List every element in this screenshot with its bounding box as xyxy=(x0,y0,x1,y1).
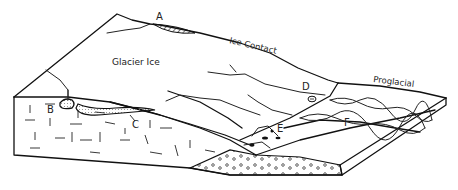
glacial-block-diagram: A Glacier Ice Ice Contact Proglacial B C… xyxy=(0,0,458,190)
feature-d-kettle xyxy=(308,96,316,102)
feature-b-deposit xyxy=(60,90,74,109)
label-a: A xyxy=(156,11,163,22)
label-b: B xyxy=(47,104,54,115)
label-c: C xyxy=(132,119,139,130)
feature-a-deposit xyxy=(153,24,195,33)
feature-c-deposit xyxy=(76,104,155,115)
label-f: F xyxy=(344,117,350,128)
outwash-gravel xyxy=(190,150,342,175)
label-glacier-ice: Glacier Ice xyxy=(112,57,160,67)
label-proglacial: Proglacial xyxy=(373,74,415,89)
label-d: D xyxy=(302,81,310,92)
label-ice-contact: Ice Contact xyxy=(229,35,279,56)
glacier-snout-lines xyxy=(110,83,435,155)
label-e: E xyxy=(277,123,283,134)
